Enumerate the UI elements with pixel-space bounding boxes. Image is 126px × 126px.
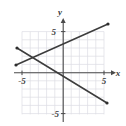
axis-lines [14, 20, 111, 122]
ascending-line [16, 24, 108, 65]
descending-line-left-dot [15, 46, 18, 49]
graph-figure: x y -5 5 5 -5 [0, 0, 126, 126]
x-tick-label-negative-five: -5 [18, 76, 26, 86]
x-tick-label-positive-five: 5 [102, 76, 107, 86]
ascending-line-right-dot [106, 22, 109, 25]
y-axis-arrow [61, 18, 66, 23]
descending-line-right-dot [105, 101, 108, 104]
y-tick-label-positive-five: 5 [52, 27, 57, 37]
coordinate-plane-svg: x y -5 5 5 -5 [0, 0, 126, 126]
x-axis-label: x [115, 68, 121, 78]
line-endpoint-dots [14, 22, 109, 104]
y-tick-label-negative-five: -5 [52, 109, 60, 119]
plotted-lines [16, 24, 108, 103]
y-axis-label: y [57, 7, 63, 17]
ascending-line-left-dot [14, 63, 17, 66]
